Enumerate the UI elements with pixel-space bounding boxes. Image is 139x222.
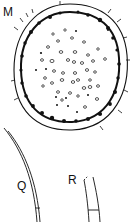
panel-label-m: M (3, 6, 13, 18)
panel-r-drawing (84, 176, 100, 222)
interior-dots (41, 29, 107, 109)
panel-m-drawing (11, 1, 130, 130)
panel-q-drawing (4, 128, 40, 222)
panel-label-q: Q (17, 180, 26, 192)
figure: M Q R (0, 0, 139, 222)
panel-label-r: R (68, 174, 77, 186)
